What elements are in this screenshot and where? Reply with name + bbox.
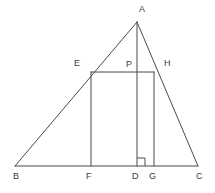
geometry-canvas (0, 0, 215, 193)
geometry-figure: A B C D E F G H P (0, 0, 215, 193)
vertex-label-B: B (13, 172, 19, 181)
segment-AC (137, 22, 198, 166)
vertex-label-D: D (132, 172, 139, 181)
right-angle-marker-group (137, 158, 145, 166)
vertex-label-P: P (126, 60, 132, 69)
vertex-label-G: G (149, 172, 156, 181)
right-angle-icon (137, 158, 145, 166)
vertex-label-C: C (196, 172, 203, 181)
vertex-label-H: H (164, 59, 171, 68)
segment-AB (15, 22, 137, 166)
vertex-label-E: E (74, 59, 80, 68)
vertex-label-F: F (86, 172, 92, 181)
segments-group (15, 22, 198, 166)
vertex-label-A: A (139, 5, 145, 14)
